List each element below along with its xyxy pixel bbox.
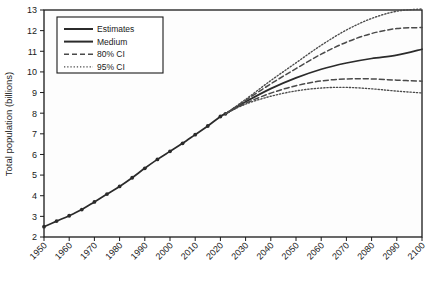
data-point-marker — [219, 115, 223, 119]
x-tick-label: 2020 — [204, 240, 225, 261]
x-tick-label: 2090 — [380, 240, 401, 261]
y-tick-label: 7 — [32, 129, 37, 139]
data-point-marker — [55, 219, 59, 223]
y-axis-ticks: 2345678910111213 — [27, 5, 44, 242]
data-point-marker — [168, 149, 172, 153]
chart-legend: EstimatesMedium80% CI95% CI — [57, 17, 163, 73]
x-tick-label: 2060 — [305, 240, 326, 261]
y-tick-label: 13 — [27, 5, 37, 15]
y-tick-label: 12 — [27, 26, 37, 36]
x-tick-label: 1970 — [78, 240, 99, 261]
y-axis-title: Total population (billions) — [3, 72, 14, 177]
data-point-marker — [118, 185, 122, 189]
data-point-marker — [143, 166, 147, 170]
x-tick-label: 1990 — [128, 240, 149, 261]
x-tick-label: 2070 — [330, 240, 351, 261]
x-tick-label: 2000 — [154, 240, 175, 261]
data-point-marker — [181, 141, 185, 145]
x-tick-label: 1960 — [53, 240, 74, 261]
population-projection-chart: 2345678910111213 19501960197019801990200… — [0, 0, 439, 296]
data-point-marker — [156, 158, 160, 162]
y-tick-label: 10 — [27, 67, 37, 77]
x-tick-label: 2080 — [355, 240, 376, 261]
x-tick-label: 2040 — [254, 240, 275, 261]
x-tick-label: 2010 — [179, 240, 200, 261]
legend-label-80-ci: 80% CI — [97, 49, 125, 59]
data-point-marker — [93, 200, 97, 204]
x-tick-label: 2030 — [229, 240, 250, 261]
y-tick-label: 9 — [32, 88, 37, 98]
data-point-marker — [80, 208, 84, 212]
data-point-marker — [206, 124, 210, 128]
y-tick-label: 3 — [32, 212, 37, 222]
y-tick-label: 8 — [32, 109, 37, 119]
y-tick-label: 6 — [32, 150, 37, 160]
x-axis-ticks: 1950196019701980199020002010202020302040… — [28, 237, 427, 262]
y-tick-label: 11 — [28, 47, 37, 57]
data-point-marker — [42, 225, 46, 229]
y-tick-label: 4 — [32, 191, 37, 201]
data-point-marker — [130, 176, 134, 180]
x-tick-label: 1950 — [28, 240, 49, 261]
data-point-marker — [67, 214, 71, 218]
x-tick-label: 1980 — [103, 240, 124, 261]
chart-canvas: 2345678910111213 19501960197019801990200… — [0, 0, 439, 296]
legend-label-medium: Medium — [97, 37, 127, 47]
y-tick-label: 5 — [32, 170, 37, 180]
x-tick-label: 2050 — [280, 240, 301, 261]
legend-label-estimates: Estimates — [97, 24, 134, 34]
data-point-marker — [193, 133, 197, 137]
x-tick-label: 2100 — [406, 240, 427, 261]
y-tick-label: 2 — [32, 232, 37, 242]
data-point-marker — [105, 192, 109, 196]
legend-label-95-ci: 95% CI — [97, 62, 125, 72]
